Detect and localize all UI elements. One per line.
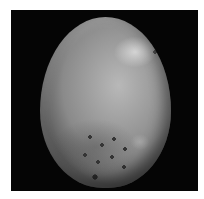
egg-shaped-fossil	[40, 17, 171, 188]
photo-frame	[11, 10, 198, 191]
